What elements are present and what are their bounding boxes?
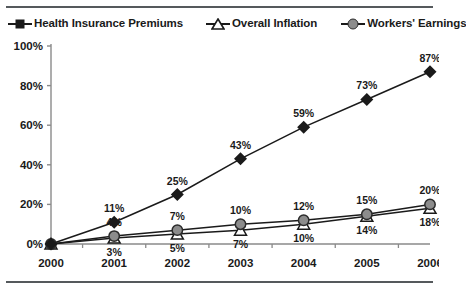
data-point-diamond xyxy=(234,152,247,165)
data-point-label: 18% xyxy=(419,216,439,228)
legend-item-health-insurance-premiums: Health Insurance Premiums xyxy=(8,17,183,31)
y-axis-tick-label: 20% xyxy=(20,198,43,210)
data-point-label: 73% xyxy=(356,79,378,91)
data-point-diamond xyxy=(297,121,310,134)
data-point-label: 10% xyxy=(293,232,315,244)
data-point-circle xyxy=(109,231,119,241)
plot-area: 0%20%40%60%80%100%2000200120022003200420… xyxy=(0,36,439,281)
data-point-label: 7% xyxy=(233,238,249,250)
data-point-label: 5% xyxy=(170,242,186,254)
x-axis-tick-label: 2003 xyxy=(228,257,254,269)
data-point-circle xyxy=(172,225,182,235)
legend-item-overall-inflation: Overall Inflation xyxy=(206,17,317,31)
data-point-label: 7% xyxy=(170,210,186,222)
data-point-label: 25% xyxy=(167,175,189,187)
data-point-label: 59% xyxy=(293,107,315,119)
x-axis-tick-label: 2005 xyxy=(354,257,380,269)
chart-legend: Health Insurance Premiums Overall Inflat… xyxy=(6,14,433,34)
data-point-label: 43% xyxy=(230,139,252,151)
y-axis-tick-label: 0% xyxy=(26,238,43,250)
data-point-label: 87% xyxy=(419,52,439,64)
data-point-label: 10% xyxy=(230,204,252,216)
x-axis-tick-label: 2000 xyxy=(38,257,64,269)
x-axis-tick-label: 2002 xyxy=(165,257,191,269)
x-axis-tick-label: 2004 xyxy=(291,257,317,269)
y-axis-tick-label: 80% xyxy=(20,80,43,92)
chart-canvas: 0%20%40%60%80%100%2000200120022003200420… xyxy=(0,36,439,281)
data-point-circle xyxy=(235,219,245,229)
data-point-label: 15% xyxy=(356,194,378,206)
y-axis-tick-label: 100% xyxy=(14,40,43,52)
x-axis-tick-label: 2006 xyxy=(417,257,439,269)
y-axis-tick-label: 40% xyxy=(20,159,43,171)
data-point-label: 11% xyxy=(104,202,125,214)
data-point-circle xyxy=(362,209,372,219)
data-point-diamond xyxy=(360,93,373,106)
circle-marker-icon xyxy=(341,17,365,31)
x-axis-tick-label: 2001 xyxy=(101,257,127,269)
bottom-divider xyxy=(6,281,433,283)
y-axis-tick-label: 60% xyxy=(20,119,43,131)
legend-label: Workers' Earnings xyxy=(367,18,466,30)
data-point-label: 12% xyxy=(293,200,315,212)
data-point-circle xyxy=(298,215,308,225)
data-point-label: 20% xyxy=(419,184,439,196)
legend-label: Health Insurance Premiums xyxy=(34,18,183,30)
diamond-marker-icon xyxy=(8,17,32,31)
data-point-label: 3% xyxy=(107,246,123,258)
triangle-marker-icon xyxy=(206,17,230,31)
data-point-diamond xyxy=(171,188,184,201)
data-point-circle xyxy=(425,199,435,209)
top-divider xyxy=(6,6,433,8)
data-point-diamond xyxy=(423,65,436,78)
legend-item-workers-earnings: Workers' Earnings xyxy=(341,17,466,31)
data-point-label: 14% xyxy=(356,224,378,236)
legend-label: Overall Inflation xyxy=(232,18,317,30)
